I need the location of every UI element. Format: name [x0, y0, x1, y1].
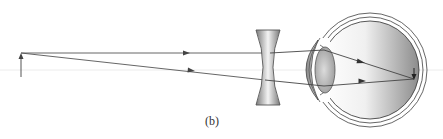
myopia-correction-diagram: (b) — [0, 0, 443, 139]
eye — [306, 13, 427, 127]
object-arrow — [19, 53, 24, 77]
figure-caption: (b) — [205, 114, 219, 129]
ray-arrow-icon — [183, 51, 190, 56]
concave-lens — [256, 30, 280, 105]
incident-rays — [21, 53, 270, 80]
